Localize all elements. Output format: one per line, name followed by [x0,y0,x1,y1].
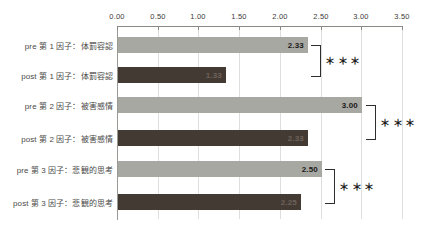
x-axis-tick [361,26,362,30]
x-axis-tick [198,26,199,30]
significance-stars-factor1: ＊＊＊ [325,53,363,68]
category-label: pre 第 3 因子：悲観的思考 [0,164,113,175]
x-axis-tick-label: 3.00 [353,12,368,21]
category-label: pre 第 1 因子：体罰容認 [0,40,113,51]
bar-pre-factor3: 2.50 [118,161,322,177]
bar-value-label: 1.33 [206,71,222,80]
x-axis-tick-label: 1.50 [231,12,246,21]
significance-bracket-factor2 [366,105,376,140]
bar-pre-factor2: 3.00 [118,97,362,113]
x-axis-tick [117,26,118,30]
x-axis-tick [280,26,281,30]
x-axis-tick [158,26,159,30]
x-axis-tick-label: 2.50 [313,12,328,21]
category-label: post 第 2 因子：被害感情 [0,133,113,144]
category-label: post 第 1 因子：体罰容認 [0,70,113,81]
x-axis-tick-label: 2.00 [272,12,287,21]
x-axis-tick [321,26,322,30]
significance-stars-factor2: ＊＊＊ [380,115,418,130]
x-axis-tick [239,26,240,30]
x-axis-tick-label: 3.50 [394,12,409,21]
bar-post-factor2: 2.33 [118,130,308,146]
bar-post-factor3: 2.25 [118,194,301,210]
gridline-5 [321,27,322,219]
x-axis-tick-label: 1.00 [190,12,205,21]
significance-bracket-factor1 [311,45,321,77]
x-axis-tick [402,26,403,30]
gridline-4 [280,27,281,219]
bar-pre-factor1: 2.33 [118,37,308,53]
significance-stars-factor3: ＊＊＊ [339,179,377,194]
bar-chart: 0.00 0.50 1.00 1.50 2.00 2.50 3.00 3.50 … [0,0,422,236]
bar-value-label: 2.33 [288,41,304,50]
significance-bracket-factor3 [325,169,335,204]
bar-value-label: 3.00 [342,101,358,110]
gridline-3 [239,27,240,219]
bar-value-label: 2.25 [281,198,297,207]
category-label: post 第 3 因子：悲観的思考 [0,197,113,208]
category-label: pre 第 2 因子：被害感情 [0,100,113,111]
bar-value-label: 2.33 [288,134,304,143]
bar-post-factor1: 1.33 [118,67,226,83]
bar-value-label: 2.50 [302,165,318,174]
gridline-2 [198,27,199,219]
y-axis-spine [117,26,118,220]
x-axis-tick-label: 0.50 [150,12,165,21]
x-axis-tick-label: 0.00 [109,12,124,21]
gridline-1 [158,27,159,219]
